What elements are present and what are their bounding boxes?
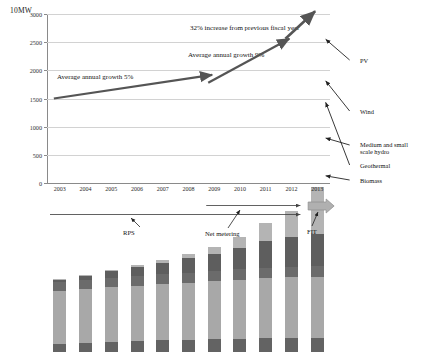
bar-segment (105, 271, 118, 277)
bar-segment (259, 338, 272, 352)
bar-segment (182, 283, 195, 340)
y-axis-tick (44, 183, 47, 184)
bar-segment (259, 241, 272, 267)
bar-segment (208, 254, 221, 272)
x-axis-label: 2011 (260, 186, 272, 192)
bar-segment (311, 277, 324, 338)
bar-segment (53, 279, 66, 280)
bar-segment (311, 266, 324, 276)
bar-segment (131, 341, 144, 352)
bars-group (47, 14, 330, 183)
bar-segment (285, 267, 298, 277)
legend-label-hydro-line2: scale hydro (360, 148, 389, 155)
bar-segment (79, 275, 92, 276)
bar-segment (182, 258, 195, 273)
policy-label-net-metering: Net metering (205, 230, 240, 237)
plot-area: 050010001500200025003000 (47, 14, 330, 183)
bar-segment (182, 340, 195, 352)
bar-segment (156, 284, 169, 340)
bar-segment (233, 339, 246, 352)
bar-segment (79, 280, 92, 289)
x-axis-label: 2012 (285, 186, 297, 192)
bar-segment (131, 267, 144, 276)
bar-segment (233, 248, 246, 270)
bar-segment (285, 237, 298, 267)
legend-label-hydro: Medium and smallscale hydro (360, 141, 426, 156)
legend-label-biomass: Biomass (360, 177, 382, 184)
bar-segment (208, 281, 221, 339)
bar-segment (259, 223, 272, 241)
y-axis-tick-label: 2000 (30, 67, 42, 74)
x-axis-label: 2006 (131, 186, 143, 192)
legend-label-pv: PV (360, 57, 368, 64)
y-axis-tick-label: 500 (33, 151, 42, 158)
y-axis-tick-label: 0 (39, 180, 42, 187)
bar-segment (182, 273, 195, 283)
y-axis-tick-label: 2500 (30, 39, 42, 46)
bar-segment (156, 260, 169, 263)
bar-segment (233, 237, 246, 248)
bar-segment (156, 274, 169, 284)
bar-segment (105, 342, 118, 352)
bar-segment (285, 277, 298, 338)
legend-label-geothermal: Geothermal (360, 162, 390, 169)
bar-segment (208, 339, 221, 352)
legend-label-wind: Wind (360, 108, 374, 115)
bar-segment (53, 344, 66, 352)
annotation-growth-9: Average annual growth 9% (188, 51, 264, 59)
bar-segment (285, 338, 298, 352)
bar-segment (79, 289, 92, 343)
y-axis-tick-label: 1000 (30, 123, 42, 130)
x-axis-label: 2005 (105, 186, 117, 192)
bar-segment (131, 265, 144, 267)
bar-segment (53, 291, 66, 345)
x-axis-label: 2003 (54, 186, 66, 192)
x-axis-label: 2010 (234, 186, 246, 192)
bar-segment (156, 340, 169, 352)
x-axis-label: 2009 (208, 186, 220, 192)
x-axis-label: 2013 (311, 186, 323, 192)
bar-segment (311, 338, 324, 352)
annotation-increase-32: 32% increase from previous fiscal year (190, 24, 299, 32)
bar-segment (105, 278, 118, 288)
bar-segment (259, 268, 272, 278)
policy-leader-net-metering (228, 210, 240, 228)
bar-segment (105, 287, 118, 342)
bar-segment (131, 286, 144, 341)
y-axis-tick-label: 3000 (30, 11, 42, 18)
bar-segment (182, 254, 195, 259)
policy-label-fit: FIT (307, 228, 317, 235)
bar-segment (53, 282, 66, 291)
policy-leader-rps (131, 218, 140, 227)
y-axis-tick-label: 1500 (30, 95, 42, 102)
bar-segment (259, 278, 272, 338)
bar-segment (208, 247, 221, 254)
x-axis-label: 2007 (157, 186, 169, 192)
bar-segment (131, 276, 144, 286)
x-axis-label: 2008 (183, 186, 195, 192)
bar-segment (79, 276, 92, 280)
bar-segment (311, 234, 324, 266)
policy-label-rps: RPS (123, 229, 135, 236)
bar-segment (208, 271, 221, 281)
bar-segment (311, 187, 324, 233)
bar-segment (156, 263, 169, 275)
annotation-growth-5: Average annual growth 5% (57, 73, 133, 81)
bar-segment (233, 280, 246, 339)
x-axis-label: 2004 (80, 186, 92, 192)
gridline (47, 183, 330, 184)
bar-segment (233, 269, 246, 279)
legend-label-hydro-line1: Medium and small (360, 141, 408, 148)
bar-segment (79, 343, 92, 352)
bar-segment (105, 270, 118, 271)
bar-segment (285, 211, 298, 237)
